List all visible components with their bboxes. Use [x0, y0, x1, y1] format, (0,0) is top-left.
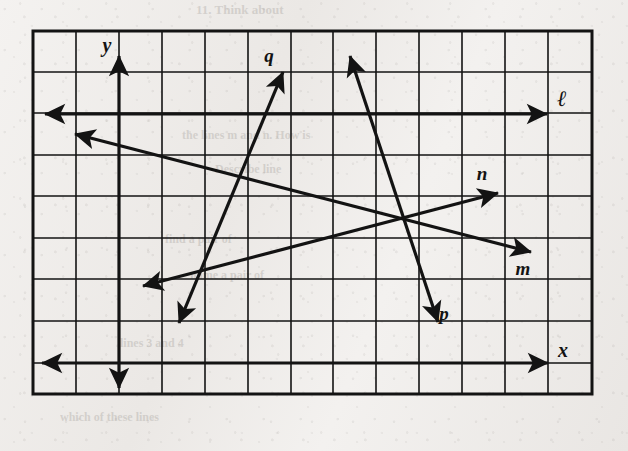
- geometry-figure: yxℓmnqp: [0, 0, 628, 451]
- line-n: [143, 193, 498, 286]
- line-l-label: ℓ: [557, 86, 566, 111]
- line-p-label: p: [437, 303, 449, 324]
- axes: [42, 56, 548, 388]
- x-axis-label: x: [557, 339, 568, 361]
- grid: [33, 31, 592, 394]
- grid-border: [33, 31, 592, 394]
- line-q-label: q: [264, 45, 274, 66]
- line-n-label: n: [477, 163, 488, 184]
- grid-outer-border: [33, 31, 592, 394]
- line-labels: yxℓmnqp: [101, 34, 568, 361]
- line-q: [179, 72, 283, 323]
- figure-root: 11. Think aboutthe lines m and n. How is…: [0, 0, 628, 451]
- y-axis-label: y: [101, 34, 112, 57]
- line-m-label: m: [516, 258, 531, 279]
- line-p: [350, 56, 438, 322]
